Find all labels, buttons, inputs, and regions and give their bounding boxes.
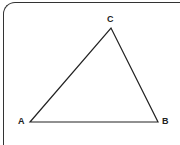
vertex-label-c: C bbox=[107, 14, 114, 24]
vertex-label-a: A bbox=[18, 116, 25, 126]
triangle-diagram bbox=[0, 0, 180, 145]
vertex-label-b: B bbox=[162, 116, 169, 126]
triangle-abc bbox=[30, 28, 158, 122]
